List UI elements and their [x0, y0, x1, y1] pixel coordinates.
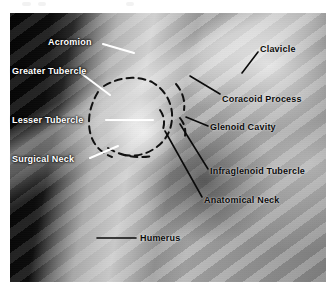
figure-page: AcromionGreater TubercleLesser TubercleS… — [0, 0, 336, 296]
label-humerus: Humerus — [140, 234, 180, 243]
label-clavicle: Clavicle — [260, 45, 296, 54]
label-anatomical-neck: Anatomical Neck — [204, 196, 280, 205]
scan-speck-1 — [22, 2, 31, 6]
label-infraglenoid-tubercle: Infraglenoid Tubercle — [210, 167, 305, 176]
label-acromion: Acromion — [48, 38, 92, 47]
scan-speck-3 — [126, 2, 134, 6]
scan-speck-2 — [38, 2, 46, 6]
label-lesser-tubercle: Lesser Tubercle — [12, 116, 83, 125]
label-surgical-neck: Surgical Neck — [12, 155, 74, 164]
label-coracoid-process: Coracoid Process — [222, 95, 302, 104]
label-greater-tubercle: Greater Tubercle — [12, 67, 87, 76]
label-glenoid-cavity: Glenoid Cavity — [210, 123, 276, 132]
